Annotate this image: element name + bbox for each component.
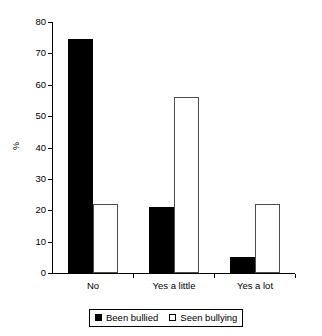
y-axis-tick-label: 40 <box>35 143 46 153</box>
bar-been-bullied-no <box>68 39 93 273</box>
y-axis-tick-mark <box>48 53 52 54</box>
y-axis-tick-mark <box>48 210 52 211</box>
legend-item-seen-bullying: Seen bullying <box>169 312 237 323</box>
x-axis-label-no: No <box>87 280 99 291</box>
y-axis-title: % <box>6 136 26 156</box>
y-axis-tick-mark <box>48 22 52 23</box>
legend-label: Been bullied <box>106 312 158 323</box>
x-axis-line <box>52 273 295 274</box>
bar-seen-bullying-yes-a-little <box>174 97 199 273</box>
y-axis-tick-label: 0 <box>41 268 46 278</box>
legend-label: Seen bullying <box>180 312 237 323</box>
y-axis-tick-label: 30 <box>35 174 46 184</box>
bar-chart: % 01020304050607080 NoYes a littleYes a … <box>0 0 322 336</box>
y-axis-tick-mark <box>48 273 52 274</box>
y-axis-tick-mark <box>48 116 52 117</box>
x-axis-tick-mark <box>295 274 296 278</box>
bar-been-bullied-yes-a-lot <box>230 257 255 273</box>
y-axis-tick-mark <box>48 242 52 243</box>
y-axis-tick-mark <box>48 179 52 180</box>
bar-seen-bullying-no <box>93 204 118 273</box>
filled-square-icon <box>95 314 102 321</box>
bar-seen-bullying-yes-a-lot <box>255 204 280 273</box>
y-axis-tick-label: 70 <box>35 48 46 58</box>
y-axis-tick-label: 60 <box>35 80 46 90</box>
bar-been-bullied-yes-a-little <box>149 207 174 273</box>
legend-item-been-bullied: Been bullied <box>95 312 158 323</box>
open-square-icon <box>169 314 176 321</box>
y-axis-line <box>52 22 53 274</box>
plot-area: 01020304050607080 <box>52 22 295 274</box>
y-axis-tick-label: 80 <box>35 17 46 27</box>
y-axis-tick-mark <box>48 85 52 86</box>
x-axis-label-yes-a-little: Yes a little <box>153 280 196 291</box>
y-axis-tick-label: 20 <box>35 205 46 215</box>
y-axis-tick-label: 50 <box>35 111 46 121</box>
x-axis-tick-mark <box>133 274 134 278</box>
x-axis-label-yes-a-lot: Yes a lot <box>237 280 273 291</box>
x-axis-tick-mark <box>214 274 215 278</box>
y-axis-tick-label: 10 <box>35 237 46 247</box>
chart-legend: Been bulliedSeen bullying <box>89 309 243 327</box>
y-axis-tick-mark <box>48 148 52 149</box>
